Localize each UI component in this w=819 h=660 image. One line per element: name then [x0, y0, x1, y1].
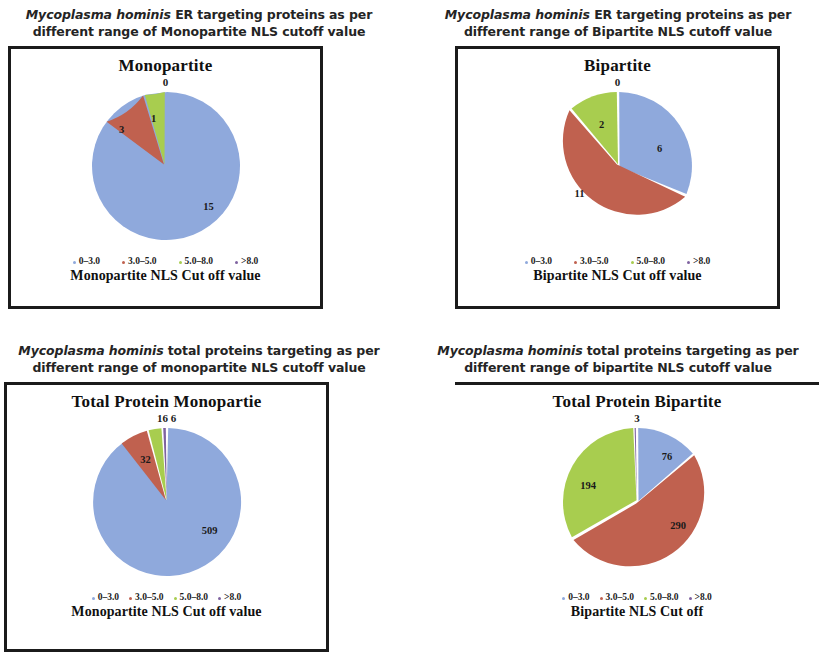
legend-item-3-5[interactable]: 3.0–5.0 — [122, 256, 157, 266]
slice-label-purple: 0 — [163, 76, 169, 88]
slice-label-green: 1 — [151, 113, 156, 124]
legend-dot-icon — [174, 597, 177, 600]
legend-label: 5.0–8.0 — [185, 256, 214, 266]
caption-line2: different range of monopartite NLS cutof… — [32, 360, 365, 375]
chart-legend: 0–3.0 3.0–5.0 5.0–8.0 >8.0 — [7, 592, 326, 602]
figure-panel-monopartite-total: Mycoplasma hominis total proteins target… — [0, 336, 400, 652]
legend-label: >8.0 — [224, 592, 241, 602]
caption-line2: different range of bipartite NLS cutoff … — [464, 360, 772, 375]
legend-dot-icon — [600, 597, 603, 600]
legend-item-3-5[interactable]: 3.0–5.0 — [574, 256, 609, 266]
chart-frame: Bipartite 0 6 11 2 0–3.0 3.0–5.0 5.0–8.0… — [455, 46, 780, 309]
pie-area: 3 76 290 194 — [455, 412, 819, 584]
legend-label: 3.0–5.0 — [128, 256, 157, 266]
panel-caption: Mycoplasma hominis total proteins target… — [0, 336, 398, 382]
legend-dot-icon — [644, 597, 647, 600]
caption-line1-rest: ER targeting proteins as per — [171, 7, 372, 22]
legend-item-3-5[interactable]: 3.0–5.0 — [600, 592, 635, 602]
legend-label: 0–3.0 — [531, 256, 552, 266]
pie-area: 0 15 3 1 — [11, 76, 320, 248]
axis-label: Bipartite NLS Cut off value — [458, 268, 777, 284]
legend-item-5-8[interactable]: 5.0–8.0 — [174, 592, 209, 602]
legend-item-5-8[interactable]: 5.0–8.0 — [179, 256, 214, 266]
legend-item-5-8[interactable]: 5.0–8.0 — [631, 256, 666, 266]
chart-frame: Total Protein Monopartie 16 6 509 32 0–3… — [4, 382, 329, 652]
legend-dot-icon — [73, 261, 76, 264]
legend-item-3-5[interactable]: 3.0–5.0 — [129, 592, 164, 602]
legend-label: 0–3.0 — [98, 592, 119, 602]
legend-dot-icon — [689, 597, 692, 600]
legend-label: >8.0 — [693, 256, 710, 266]
legend-label: >8.0 — [695, 592, 712, 602]
slice-label-red: 32 — [140, 454, 151, 465]
legend-label: 5.0–8.0 — [650, 592, 679, 602]
slice-label-blue: 15 — [203, 201, 214, 212]
legend-item-gt8[interactable]: >8.0 — [687, 256, 710, 266]
pie-slice-blue — [93, 428, 241, 576]
slice-label-purple: 0 — [615, 76, 621, 88]
slice-label-green: 194 — [580, 480, 596, 491]
species-name: Mycoplasma hominis — [18, 343, 163, 358]
legend-label: 5.0–8.0 — [180, 592, 209, 602]
legend-dot-icon — [122, 261, 125, 264]
legend-item-gt8[interactable]: >8.0 — [235, 256, 258, 266]
legend-item-gt8[interactable]: >8.0 — [689, 592, 712, 602]
legend-label: 0–3.0 — [79, 256, 100, 266]
slice-label-blue: 76 — [662, 451, 673, 462]
pie-area: 16 6 509 32 — [7, 412, 326, 584]
pie-chart-bipartite — [528, 90, 708, 242]
legend-item-0-3[interactable]: 0–3.0 — [73, 256, 100, 266]
chart-frame: Total Protein Bipartite 3 76 290 194 0–3… — [455, 382, 819, 652]
chart-legend: 0–3.0 3.0–5.0 5.0–8.0 >8.0 — [455, 592, 819, 602]
legend-dot-icon — [218, 597, 221, 600]
chart-frame: Monopartite 0 15 3 1 0–3.0 3.0–5.0 5.0–8… — [8, 46, 323, 309]
legend-dot-icon — [235, 261, 238, 264]
legend-label: 3.0–5.0 — [135, 592, 164, 602]
legend-dot-icon — [179, 261, 182, 264]
chart-title: Monopartite — [11, 56, 320, 76]
caption-line1-rest: ER targeting proteins as per — [590, 7, 791, 22]
legend-dot-icon — [562, 597, 565, 600]
figure-panel-monopartite-er: Mycoplasma hominis ER targeting proteins… — [0, 0, 400, 309]
chart-legend: 0–3.0 3.0–5.0 5.0–8.0 >8.0 — [458, 256, 777, 266]
panel-caption: Mycoplasma hominis total proteins target… — [419, 336, 817, 382]
species-name: Mycoplasma hominis — [26, 7, 171, 22]
legend-item-5-8[interactable]: 5.0–8.0 — [644, 592, 679, 602]
legend-label: 3.0–5.0 — [580, 256, 609, 266]
figure-panel-bipartite-total: Mycoplasma hominis total proteins target… — [419, 336, 819, 652]
axis-label: Monopartite NLS Cut off value — [11, 268, 320, 284]
legend-item-gt8[interactable]: >8.0 — [218, 592, 241, 602]
pie-area: 0 6 11 2 — [458, 76, 777, 248]
legend-item-0-3[interactable]: 0–3.0 — [92, 592, 119, 602]
legend-dot-icon — [525, 261, 528, 264]
chart-title: Bipartite — [458, 56, 777, 76]
chart-legend: 0–3.0 3.0–5.0 5.0–8.0 >8.0 — [11, 256, 320, 266]
legend-item-0-3[interactable]: 0–3.0 — [525, 256, 552, 266]
legend-item-0-3[interactable]: 0–3.0 — [562, 592, 589, 602]
axis-label: Bipartite NLS Cut off — [455, 604, 819, 620]
pie-chart-monopartite — [76, 90, 256, 242]
legend-dot-icon — [92, 597, 95, 600]
legend-dot-icon — [129, 597, 132, 600]
slice-label-green-purple: 16 6 — [157, 412, 176, 424]
panel-caption: Mycoplasma hominis ER targeting proteins… — [419, 0, 817, 46]
slice-label-blue: 6 — [657, 143, 662, 154]
caption-line1-rest: total proteins targeting as per — [582, 343, 798, 358]
chart-title: Total Protein Monopartie — [7, 392, 326, 412]
slice-label-green: 2 — [599, 119, 604, 130]
caption-line1-rest: total proteins targeting as per — [163, 343, 379, 358]
legend-label: 0–3.0 — [568, 592, 589, 602]
species-name: Mycoplasma hominis — [445, 7, 590, 22]
caption-line2: different range of Monopartite NLS cutof… — [33, 24, 366, 39]
legend-label: 5.0–8.0 — [637, 256, 666, 266]
slice-label-red: 3 — [119, 124, 124, 135]
legend-dot-icon — [631, 261, 634, 264]
caption-line2: different range of Bipartite NLS cutoff … — [464, 24, 772, 39]
figure-panel-bipartite-er: Mycoplasma hominis ER targeting proteins… — [419, 0, 819, 309]
legend-label: >8.0 — [241, 256, 258, 266]
legend-dot-icon — [574, 261, 577, 264]
axis-label: Monopartite NLS Cut off value — [7, 604, 326, 620]
slice-label-red: 11 — [575, 188, 585, 199]
chart-title: Total Protein Bipartite — [455, 392, 819, 412]
species-name: Mycoplasma hominis — [437, 343, 582, 358]
